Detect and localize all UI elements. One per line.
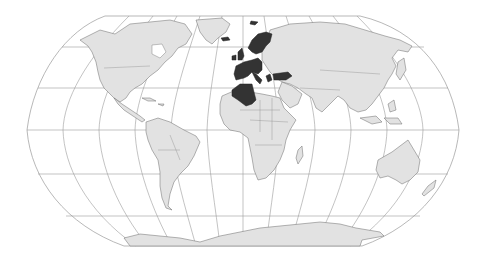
world-map: [0, 0, 482, 262]
ireland: [232, 55, 236, 60]
iceland: [221, 37, 230, 41]
